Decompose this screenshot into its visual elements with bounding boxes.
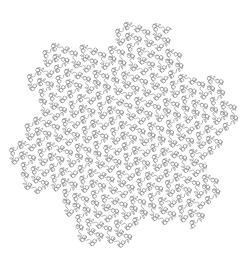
fractal-curve-svg [0,0,246,269]
fractal-figure-canvas [0,0,246,269]
